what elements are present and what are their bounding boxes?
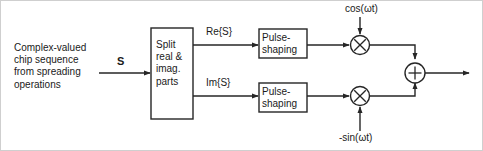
upper-to-summer-path [370, 45, 415, 59]
split-line-3: imag. [156, 63, 192, 75]
split-block-label: Split real & imag. parts [156, 39, 192, 88]
cos-carrier-label: cos(ωt) [345, 3, 378, 15]
pulse-shaping-upper-label: Pulse- shaping [262, 32, 306, 56]
source-line-4: operations [14, 79, 106, 91]
source-line-3: from spreading [14, 66, 106, 78]
split-line-4: parts [156, 76, 192, 88]
block-diagram-figure: Complex-valued chip sequence from spread… [0, 0, 483, 151]
pulse-lower-line-2: shaping [262, 98, 306, 110]
pulse-upper-line-1: Pulse- [262, 32, 306, 44]
pulse-shaping-lower-label: Pulse- shaping [262, 86, 306, 110]
neg-sin-carrier-label: -sin(ωt) [339, 132, 372, 144]
source-description-text: Complex-valued chip sequence from spread… [14, 42, 106, 91]
source-line-1: Complex-valued [14, 42, 106, 54]
source-line-2: chip sequence [14, 54, 106, 66]
input-signal-label: S [117, 55, 124, 68]
split-line-2: real & [156, 51, 192, 63]
imag-branch-label: Im{S} [206, 77, 230, 89]
split-line-1: Split [156, 39, 192, 51]
pulse-lower-line-1: Pulse- [262, 86, 306, 98]
pulse-upper-line-2: shaping [262, 44, 306, 56]
real-branch-label: Re{S} [206, 26, 232, 38]
lower-to-summer-path [370, 83, 415, 96]
